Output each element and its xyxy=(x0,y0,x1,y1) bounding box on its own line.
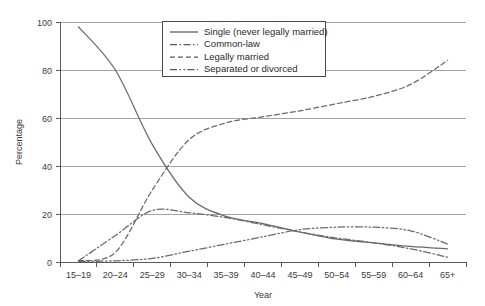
x-tick-label: 45–49 xyxy=(287,270,312,280)
x-tick-label: 35–39 xyxy=(214,270,239,280)
y-tick-label: 100 xyxy=(37,18,52,28)
legend-label-0: Single (never legally married) xyxy=(204,26,328,37)
series-line-2 xyxy=(78,60,447,260)
y-tick-labels-group: 020406080100 xyxy=(37,18,52,268)
x-tick-label: 65+ xyxy=(440,270,455,280)
y-axis-title: Percentage xyxy=(14,119,24,165)
x-tick-label: 50–54 xyxy=(324,270,349,280)
x-tick-label: 30–34 xyxy=(177,270,202,280)
y-tick-label: 40 xyxy=(42,162,52,172)
x-axis-title: Year xyxy=(254,290,272,300)
x-tick-label: 40–44 xyxy=(250,270,275,280)
y-tick-label: 0 xyxy=(47,258,52,268)
legend-label-1: Common-law xyxy=(204,38,260,49)
chart-legend: Single (never legally married)Common-law… xyxy=(162,21,328,76)
x-tick-label: 60–64 xyxy=(398,270,423,280)
y-tick-label: 60 xyxy=(42,114,52,124)
legend-label-3: Separated or divorced xyxy=(204,63,297,74)
y-tick-label: 80 xyxy=(42,66,52,76)
x-tick-label: 55–59 xyxy=(361,270,386,280)
y-tick-label: 20 xyxy=(42,210,52,220)
chart-container: 020406080100 15–1920–2425–2930–3435–3940… xyxy=(0,0,485,306)
line-chart: 020406080100 15–1920–2425–2930–3435–3940… xyxy=(0,0,485,306)
x-tick-label: 25–29 xyxy=(140,270,165,280)
x-tick-label: 20–24 xyxy=(103,270,128,280)
legend-label-2: Legally married xyxy=(204,51,269,62)
x-tick-label: 15–19 xyxy=(66,270,91,280)
x-tick-labels-group: 15–1920–2425–2930–3435–3940–4445–4950–54… xyxy=(66,270,455,280)
series-line-1 xyxy=(78,209,447,261)
